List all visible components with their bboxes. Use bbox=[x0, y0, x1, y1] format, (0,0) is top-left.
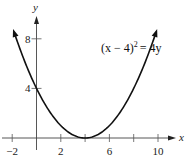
y-axis-arrow-icon bbox=[34, 16, 39, 24]
x-axis-label: x bbox=[178, 131, 184, 143]
curve-left-arrow-icon bbox=[13, 29, 19, 38]
equation-label: (x − 4)2= 4y bbox=[101, 40, 162, 55]
x-tick-label: 6 bbox=[107, 145, 113, 157]
y-tick-label: 8 bbox=[25, 33, 31, 45]
y-tick-label: 4 bbox=[25, 82, 31, 94]
tick-marks bbox=[12, 39, 158, 142]
parabola-plot: −2261048 x y (x − 4)2= 4y bbox=[0, 0, 186, 157]
x-tick-label: 2 bbox=[58, 145, 64, 157]
y-axis-label: y bbox=[32, 1, 38, 13]
curve-right-arrow-icon bbox=[152, 29, 158, 38]
equation-exponent: 2 bbox=[134, 40, 138, 49]
curve-arrowheads bbox=[13, 29, 158, 38]
equation-rhs: = 4y bbox=[140, 41, 162, 55]
x-axis-arrow-icon bbox=[168, 136, 176, 141]
x-tick-label: −2 bbox=[6, 145, 18, 157]
x-tick-label: 10 bbox=[153, 145, 165, 157]
equation-lhs: (x − 4) bbox=[101, 41, 134, 55]
